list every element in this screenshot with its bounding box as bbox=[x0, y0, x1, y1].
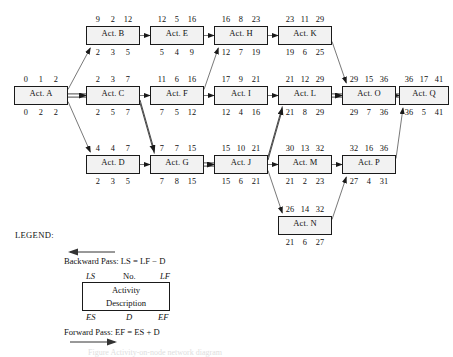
node-a-es: 0 bbox=[19, 108, 34, 117]
node-o-ls: 29 bbox=[347, 75, 362, 84]
node-c[interactable]: Act. C bbox=[86, 86, 140, 105]
node-d-backward-values: 447 bbox=[82, 144, 144, 153]
node-d-forward-values: 235 bbox=[82, 177, 144, 186]
node-i-ls: 17 bbox=[219, 75, 234, 84]
node-f-label: Act. F bbox=[151, 87, 203, 99]
node-o-d: 7 bbox=[362, 108, 377, 117]
node-j-no: 10 bbox=[234, 144, 249, 153]
node-a-ls: 0 bbox=[19, 75, 34, 84]
node-o-label: Act. O bbox=[343, 87, 395, 99]
node-k-forward-values: 19625 bbox=[274, 48, 336, 57]
node-b-label: Act. B bbox=[87, 27, 139, 39]
node-a[interactable]: Act. A bbox=[14, 86, 68, 105]
node-i-forward-values: 12416 bbox=[210, 108, 272, 117]
node-f[interactable]: Act. F bbox=[150, 86, 204, 105]
node-g-label: Act. G bbox=[151, 156, 203, 168]
node-j-es: 15 bbox=[219, 177, 234, 186]
node-o-es: 29 bbox=[347, 108, 362, 117]
node-c-es: 2 bbox=[91, 108, 106, 117]
node-d-ls: 4 bbox=[91, 144, 106, 153]
node-q-label: Act. Q bbox=[400, 87, 448, 99]
node-f-d: 5 bbox=[170, 108, 185, 117]
legend-ef-label: EF bbox=[158, 312, 169, 322]
node-a-backward-values: 012 bbox=[10, 75, 72, 84]
node-k-lf: 29 bbox=[313, 15, 328, 24]
node-g-ls: 7 bbox=[155, 144, 170, 153]
node-q-ef: 41 bbox=[432, 108, 447, 117]
node-i[interactable]: Act. I bbox=[214, 86, 268, 105]
node-i-backward-values: 17921 bbox=[210, 75, 272, 84]
node-f-no: 6 bbox=[170, 75, 185, 84]
node-l-d: 8 bbox=[298, 108, 313, 117]
node-b[interactable]: Act. B bbox=[86, 26, 140, 45]
node-h-backward-values: 16823 bbox=[210, 15, 272, 24]
node-o[interactable]: Act. O bbox=[342, 86, 396, 105]
node-c-ls: 2 bbox=[91, 75, 106, 84]
legend-box-line1: Activity bbox=[83, 284, 169, 297]
node-a-ef: 2 bbox=[49, 108, 64, 117]
node-c-forward-values: 257 bbox=[82, 108, 144, 117]
node-j-backward-values: 151021 bbox=[210, 144, 272, 153]
node-j-lf: 21 bbox=[249, 144, 264, 153]
node-b-ls: 9 bbox=[91, 15, 106, 24]
legend-forward-pass: Forward Pass: EF = ES + D bbox=[64, 327, 160, 337]
node-d-d: 3 bbox=[106, 177, 121, 186]
node-i-es: 12 bbox=[219, 108, 234, 117]
node-l-ef: 29 bbox=[313, 108, 328, 117]
node-k-ef: 25 bbox=[313, 48, 328, 57]
node-g-es: 7 bbox=[155, 177, 170, 186]
node-c-d: 5 bbox=[106, 108, 121, 117]
legend-es-label: ES bbox=[86, 312, 96, 322]
node-l-backward-values: 211229 bbox=[274, 75, 336, 84]
node-f-lf: 16 bbox=[185, 75, 200, 84]
node-g[interactable]: Act. G bbox=[150, 155, 204, 174]
node-e-es: 5 bbox=[155, 48, 170, 57]
node-k-no: 11 bbox=[298, 15, 313, 24]
node-b-es: 2 bbox=[91, 48, 106, 57]
node-b-ef: 5 bbox=[121, 48, 136, 57]
node-h-forward-values: 12719 bbox=[210, 48, 272, 57]
node-h-no: 8 bbox=[234, 15, 249, 24]
node-m[interactable]: Act. M bbox=[278, 155, 332, 174]
figure-caption: Figure Activity-on-node network diagram bbox=[88, 348, 428, 357]
node-f-backward-values: 11616 bbox=[146, 75, 208, 84]
node-c-no: 3 bbox=[106, 75, 121, 84]
node-i-ef: 16 bbox=[249, 108, 264, 117]
node-m-backward-values: 301332 bbox=[274, 144, 336, 153]
node-b-d: 3 bbox=[106, 48, 121, 57]
node-d[interactable]: Act. D bbox=[86, 155, 140, 174]
node-o-forward-values: 29736 bbox=[338, 108, 400, 117]
node-k[interactable]: Act. K bbox=[278, 26, 332, 45]
node-h[interactable]: Act. H bbox=[214, 26, 268, 45]
node-d-no: 4 bbox=[106, 144, 121, 153]
node-k-ls: 23 bbox=[283, 15, 298, 24]
node-n-no: 14 bbox=[298, 205, 313, 214]
node-o-ef: 36 bbox=[377, 108, 392, 117]
node-p-label: Act. P bbox=[343, 156, 395, 168]
legend-ls-label: LS bbox=[86, 271, 95, 281]
node-b-forward-values: 235 bbox=[82, 48, 144, 57]
node-g-d: 8 bbox=[170, 177, 185, 186]
node-q[interactable]: Act. Q bbox=[399, 86, 449, 105]
node-h-label: Act. H bbox=[215, 27, 267, 39]
node-n-ls: 26 bbox=[283, 205, 298, 214]
node-a-no: 1 bbox=[34, 75, 49, 84]
node-j[interactable]: Act. J bbox=[214, 155, 268, 174]
node-m-es: 21 bbox=[283, 177, 298, 186]
node-k-backward-values: 231129 bbox=[274, 15, 336, 24]
node-e-d: 4 bbox=[170, 48, 185, 57]
node-e-ef: 9 bbox=[185, 48, 200, 57]
node-m-lf: 32 bbox=[313, 144, 328, 153]
node-m-ls: 30 bbox=[283, 144, 298, 153]
node-e[interactable]: Act. E bbox=[150, 26, 204, 45]
node-a-lf: 2 bbox=[49, 75, 64, 84]
node-i-lf: 21 bbox=[249, 75, 264, 84]
node-n-lf: 32 bbox=[313, 205, 328, 214]
node-p[interactable]: Act. P bbox=[342, 155, 396, 174]
node-g-forward-values: 7815 bbox=[146, 177, 208, 186]
node-f-ef: 12 bbox=[185, 108, 200, 117]
node-f-forward-values: 7512 bbox=[146, 108, 208, 117]
node-o-lf: 36 bbox=[377, 75, 392, 84]
node-f-es: 7 bbox=[155, 108, 170, 117]
node-l[interactable]: Act. L bbox=[278, 86, 332, 105]
